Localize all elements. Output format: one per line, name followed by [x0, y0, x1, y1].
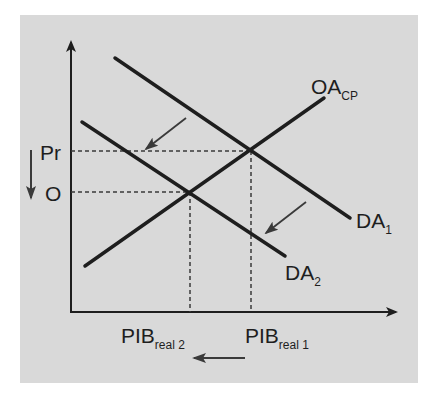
x-label-pib-real1: PIBreal 1	[245, 324, 309, 352]
oa-cp-curve	[85, 98, 324, 266]
da2-curve	[82, 122, 285, 256]
shift-arrow-lower-right	[266, 202, 306, 233]
x-label-pib-real2: PIBreal 2	[121, 324, 185, 352]
oa-cp-label: OACP	[311, 75, 358, 103]
y-label-pr: Pr	[40, 141, 61, 164]
shift-arrow-upper-left	[146, 118, 186, 149]
ad-as-diagram: Pr O OACP DA1 DA2 PIBreal 2 PIBreal 1	[0, 0, 432, 395]
y-label-o: O	[45, 182, 61, 205]
da1-label: DA1	[356, 209, 392, 237]
da2-label: DA2	[285, 261, 321, 289]
